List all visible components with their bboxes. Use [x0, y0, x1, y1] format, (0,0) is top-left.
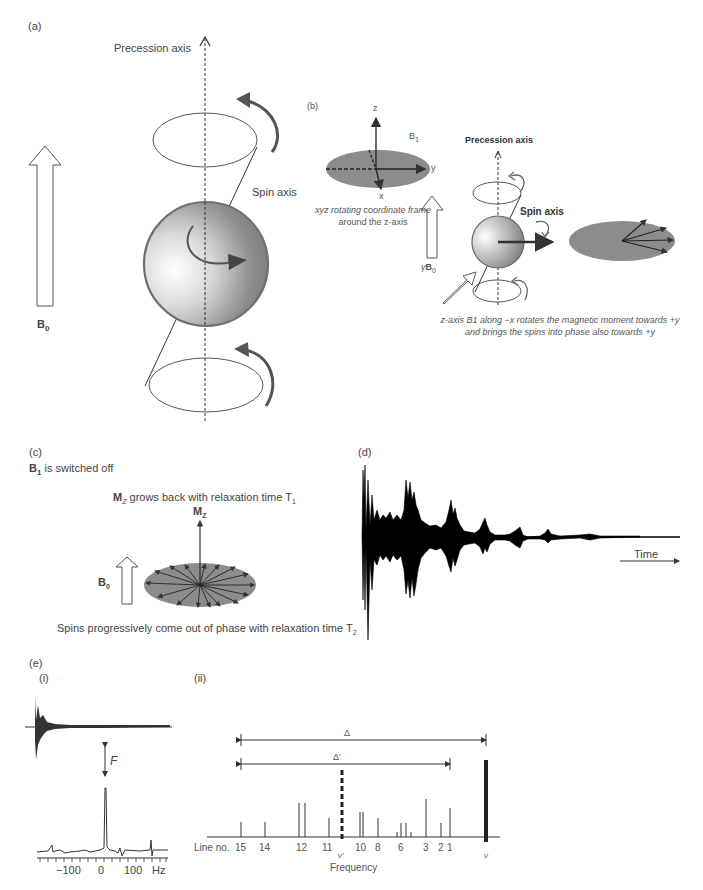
b0-arrow-icon	[29, 146, 61, 306]
frequency-label: Frequency	[330, 862, 377, 873]
spin-axis-label-b: Spin axis	[520, 206, 564, 217]
hz-tick-neg100: −100	[56, 864, 81, 876]
mz-caption: MZ grows back with relaxation time T1	[113, 491, 296, 505]
time-label: Time	[634, 548, 658, 560]
dephase-caption: Spins progressively come out of phase wi…	[57, 622, 357, 636]
sub-i-label: (i)	[39, 672, 49, 684]
gamma-b0-label: γB0	[421, 262, 436, 274]
b-caption-1: z-axis B1 along −x rotates the magnetic …	[420, 315, 700, 325]
line-15: 15	[235, 842, 246, 853]
axis-y-label: y	[431, 163, 436, 173]
frame-caption-2: around the z-axis	[303, 217, 443, 227]
hz-tick-0: 0	[98, 864, 104, 876]
delta-prime-label: Δ′	[333, 752, 341, 762]
frame-caption-1: xyz rotating coordinate frame	[303, 205, 443, 215]
fourier-transform-label: F	[110, 754, 117, 768]
nu-label: ν	[484, 851, 488, 860]
b0-label-c: B0	[98, 576, 110, 590]
panel-b-label: (b)	[307, 101, 318, 111]
hz-unit: Hz	[152, 864, 165, 876]
panel-e-label: (e)	[29, 657, 42, 669]
line-6: 6	[398, 842, 404, 853]
line-3: 3	[423, 842, 429, 853]
nu-prime-label: ν′	[338, 851, 344, 860]
precession-axis-label-b: Precession axis	[465, 135, 533, 145]
b-caption-2: and brings the spins into phase also tow…	[420, 327, 700, 337]
b1-label: B1	[409, 131, 419, 143]
axis-z-label: z	[373, 103, 378, 113]
panel-c-label: (c)	[29, 446, 42, 458]
line-8: 8	[375, 842, 381, 853]
axis-x-label: x	[379, 191, 384, 201]
delta-label: Δ	[344, 728, 350, 738]
diagram-canvas	[0, 0, 703, 890]
mz-label: MZ	[193, 505, 206, 519]
b1-switched-off: B1 is switched off	[29, 462, 113, 477]
sub-ii-label: (ii)	[194, 672, 206, 684]
line-10: 10	[355, 842, 366, 853]
fid-waveform	[362, 465, 640, 640]
line-11: 11	[322, 842, 332, 853]
line-12: 12	[296, 842, 307, 853]
panel-d-label: (d)	[358, 446, 371, 458]
line-no-label: Line no.	[194, 842, 230, 853]
line-14: 14	[259, 842, 270, 853]
fid-small	[35, 696, 170, 760]
line-2: 2	[438, 842, 444, 853]
hz-tick-100: 100	[124, 864, 142, 876]
line-1: 1	[447, 842, 453, 853]
